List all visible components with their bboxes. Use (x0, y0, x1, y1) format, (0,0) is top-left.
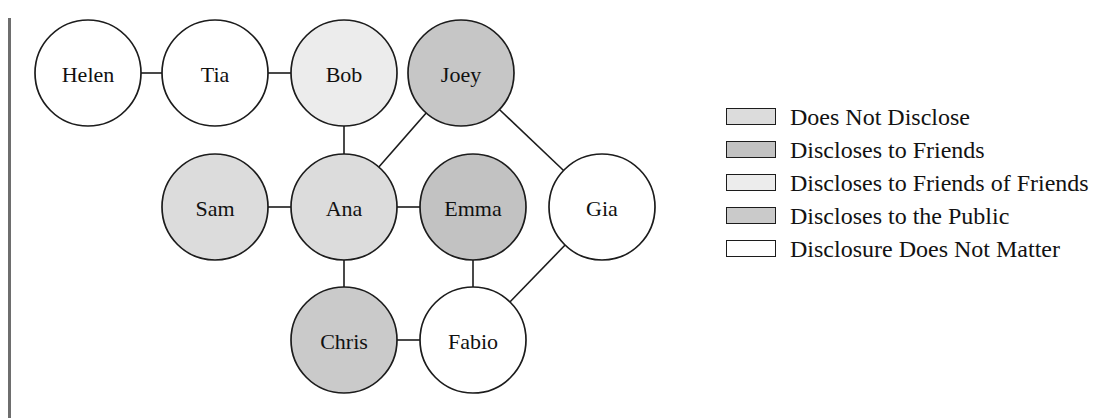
network-diagram-figure: HelenTiaBobJoeySamAnaEmmaGiaChrisFabio D… (0, 0, 1113, 418)
node-label-sam: Sam (195, 196, 234, 221)
legend-label-4: Disclosure Does Not Matter (790, 237, 1060, 261)
node-label-helen: Helen (62, 62, 115, 87)
legend-label-1: Discloses to Friends (790, 138, 985, 162)
node-label-emma: Emma (444, 196, 502, 221)
legend-swatch-0 (726, 108, 776, 125)
edge-joey-gia (499, 110, 563, 171)
node-label-chris: Chris (320, 329, 368, 354)
legend-label-3: Discloses to the Public (790, 204, 1009, 228)
network-graph: HelenTiaBobJoeySamAnaEmmaGiaChrisFabio (0, 0, 700, 418)
edge-ana-joey (379, 113, 426, 167)
legend-row-0: Does Not Disclose (726, 100, 1106, 133)
legend-swatch-3 (726, 207, 776, 224)
legend-label-2: Discloses to Friends of Friends (790, 171, 1089, 195)
node-ana[interactable]: Ana (291, 154, 397, 260)
node-fabio[interactable]: Fabio (420, 287, 526, 393)
node-joey[interactable]: Joey (408, 20, 514, 126)
node-tia[interactable]: Tia (162, 20, 268, 126)
nodes-layer: HelenTiaBobJoeySamAnaEmmaGiaChrisFabio (35, 20, 655, 393)
node-chris[interactable]: Chris (291, 287, 397, 393)
legend-label-0: Does Not Disclose (790, 105, 970, 129)
node-helen[interactable]: Helen (35, 20, 141, 126)
legend-row-2: Discloses to Friends of Friends (726, 166, 1106, 199)
node-bob[interactable]: Bob (291, 20, 397, 126)
node-gia[interactable]: Gia (549, 154, 655, 260)
node-label-joey: Joey (441, 62, 481, 87)
legend: Does Not DiscloseDiscloses to FriendsDis… (726, 100, 1106, 265)
legend-swatch-4 (726, 240, 776, 257)
legend-row-3: Discloses to the Public (726, 199, 1106, 232)
node-label-gia: Gia (586, 196, 618, 221)
node-sam[interactable]: Sam (162, 154, 268, 260)
edge-fabio-gia (510, 245, 565, 302)
legend-row-1: Discloses to Friends (726, 133, 1106, 166)
node-label-fabio: Fabio (448, 329, 498, 354)
legend-row-4: Disclosure Does Not Matter (726, 232, 1106, 265)
legend-swatch-1 (726, 141, 776, 158)
node-emma[interactable]: Emma (420, 154, 526, 260)
node-label-ana: Ana (326, 196, 363, 221)
legend-swatch-2 (726, 174, 776, 191)
node-label-bob: Bob (326, 62, 363, 87)
node-label-tia: Tia (201, 62, 230, 87)
